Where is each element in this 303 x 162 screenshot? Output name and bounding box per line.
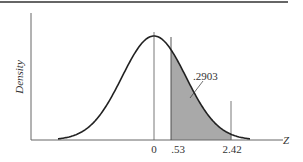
x-axis-label: Z bbox=[283, 134, 290, 146]
area-label: .2903 bbox=[193, 70, 218, 82]
y-axis-label: Density bbox=[13, 60, 25, 95]
tick-label-0.53: .53 bbox=[171, 143, 185, 155]
normal-density-chart: .2903 0 .53 2.42 Z Density bbox=[0, 0, 303, 162]
shaded-area bbox=[171, 50, 231, 140]
tick-label-0: 0 bbox=[151, 143, 157, 155]
tick-label-2.42: 2.42 bbox=[222, 143, 241, 155]
